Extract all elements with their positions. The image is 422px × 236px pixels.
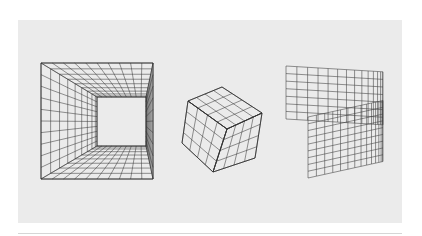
cylinder-figure — [286, 66, 383, 178]
tunnel-box-figure — [41, 63, 153, 179]
figure-canvas — [0, 0, 422, 236]
cube-figure — [182, 87, 262, 172]
